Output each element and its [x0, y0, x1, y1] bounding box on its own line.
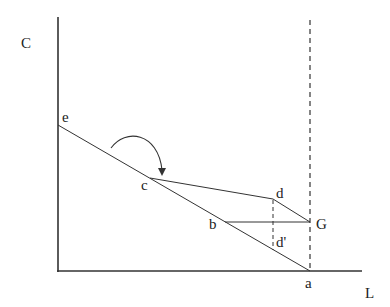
arrowhead-icon — [158, 168, 166, 176]
point-d-prime-label: d' — [276, 234, 287, 250]
point-a-label: a — [305, 275, 312, 291]
point-G-label: G — [316, 216, 327, 232]
point-e-label: e — [62, 109, 69, 125]
diagram: C L e c b d d' G a — [0, 0, 390, 307]
point-c-label: c — [141, 177, 148, 193]
x-axis-label: L — [365, 285, 374, 301]
curved-arrow-icon — [111, 136, 162, 170]
point-b-label: b — [209, 216, 217, 232]
point-d-label: d — [276, 185, 284, 201]
line-dG — [273, 199, 310, 222]
y-axis-label: C — [21, 35, 31, 51]
budget-line-ea — [58, 125, 310, 271]
